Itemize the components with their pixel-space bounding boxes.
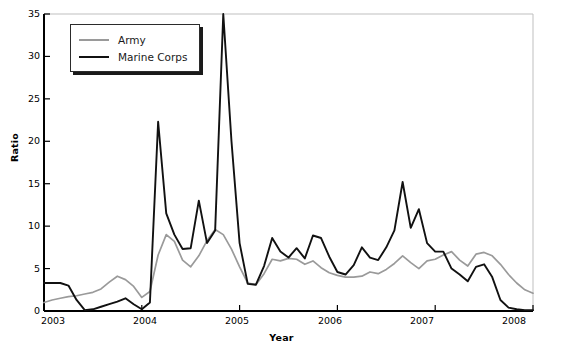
legend-label-army: Army: [118, 34, 146, 46]
legend: Army Marine Corps: [70, 24, 200, 72]
series-line-army: [44, 230, 533, 303]
legend-label-marine-corps: Marine Corps: [118, 51, 187, 63]
legend-swatch-army-icon: [79, 39, 109, 41]
line-chart: Ratio 35 30 25 20 15 10 5 0 2003 2004 20…: [0, 0, 563, 350]
legend-item-marine-corps: Marine Corps: [79, 48, 187, 65]
legend-item-army: Army: [79, 31, 187, 48]
legend-swatch-marine-corps-icon: [79, 56, 109, 58]
